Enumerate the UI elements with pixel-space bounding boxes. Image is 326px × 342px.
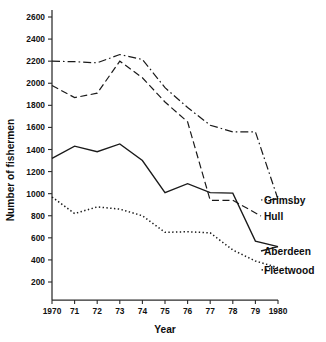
series-label-hull: Hull [264,211,283,222]
axes-group [52,10,278,300]
y-tick-label: 2000 [26,78,45,88]
line-chart: 2004006008001000120014001600180020002200… [0,0,326,342]
y-tick-label: 400 [31,255,45,265]
y-tick-label: 2600 [26,12,45,22]
series-line-aberdeen [52,144,278,247]
y-tick-label: 600 [31,233,45,243]
series-label-aberdeen: Aberdeen [264,246,311,257]
series-label-fleetwood: Fleetwood [264,265,314,276]
series-label-grimsby: Grimsby [264,195,306,206]
x-tick-label: 1970 [43,306,62,316]
x-tick-label: 79 [251,306,261,316]
y-tick-label: 1000 [26,189,45,199]
x-tick-label: 72 [93,306,103,316]
y-tick-label: 200 [31,277,45,287]
y-tick-label: 1600 [26,122,45,132]
x-tick-label: 71 [70,306,80,316]
x-tick-label: 1980 [269,306,288,316]
y-tick-label: 2200 [26,56,45,66]
x-axis-ticks: 19707172737475767778791980 [43,300,288,316]
y-axis-title: Number of fishermen [5,119,16,221]
series-group [52,55,278,268]
x-tick-label: 75 [160,306,170,316]
label-leader-lines [233,199,278,270]
y-tick-label: 2400 [26,34,45,44]
x-axis-title: Year [154,324,176,335]
y-tick-label: 1200 [26,167,45,177]
series-line-hull [52,61,233,200]
series-line-fleetwood [52,197,278,268]
x-tick-label: 77 [206,306,216,316]
x-tick-label: 74 [138,306,148,316]
y-tick-label: 800 [31,211,45,221]
chart-canvas: 2004006008001000120014001600180020002200… [0,0,326,342]
y-tick-label: 1400 [26,145,45,155]
series-line-grimsby [52,55,278,200]
y-tick-label: 1800 [26,100,45,110]
x-tick-label: 73 [115,306,125,316]
x-tick-label: 76 [183,306,193,316]
y-axis-ticks: 2004006008001000120014001600180020002200… [26,12,52,287]
x-tick-label: 78 [228,306,238,316]
leader-line-hull [233,200,261,216]
